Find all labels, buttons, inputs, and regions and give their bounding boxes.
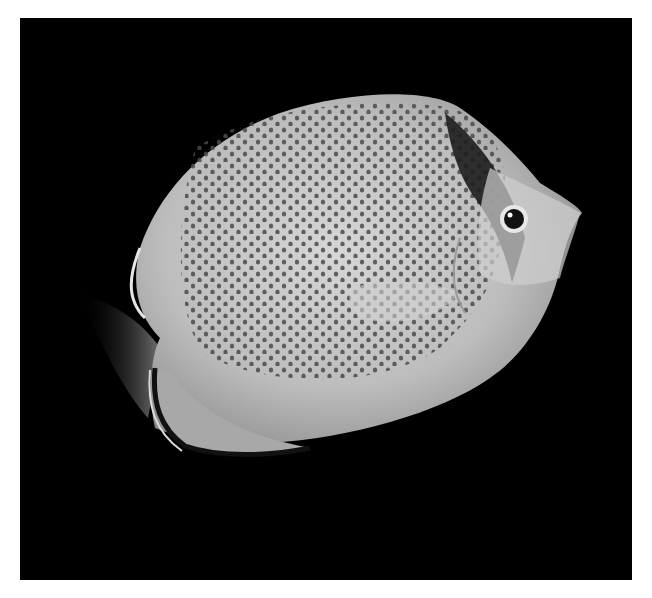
photo: Black-and-white photograph of a spotted … — [20, 18, 632, 580]
butterflyfish-illustration — [20, 18, 632, 580]
